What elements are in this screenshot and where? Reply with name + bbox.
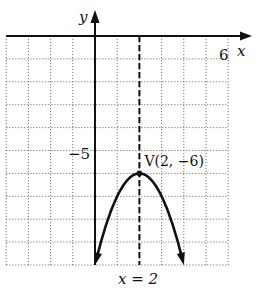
axes <box>6 10 252 265</box>
y-tick-label-neg5: −5 <box>68 145 90 163</box>
y-axis-label: y <box>78 8 88 26</box>
curve-arrow-left-icon <box>94 252 102 265</box>
x-axis-label: x <box>237 42 246 60</box>
grid <box>6 36 228 265</box>
axis-of-symmetry-label: x = 2 <box>118 270 158 288</box>
y-axis-arrow-icon <box>91 10 100 23</box>
x-axis-arrow-icon <box>240 32 252 41</box>
x-tick-label-6: 6 <box>219 46 229 64</box>
vertex-label: V(2, −6) <box>143 153 203 169</box>
parabola-graph: y x 6 −5 V(2, −6) x = 2 <box>0 0 260 289</box>
vertex-point <box>137 171 143 177</box>
curve-arrow-right-icon <box>177 252 185 265</box>
